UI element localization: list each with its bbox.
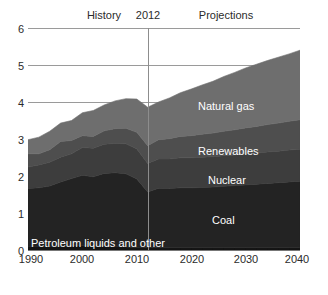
series-label-petroleum: Petroleum liquids and other xyxy=(31,238,165,249)
y-tick-label: 1 xyxy=(0,209,24,220)
x-tick-label: 1990 xyxy=(19,254,43,265)
x-tick-label: 2000 xyxy=(70,254,94,265)
x-tick-label: 2030 xyxy=(234,254,258,265)
divider-year-label: 2012 xyxy=(136,10,160,21)
x-tick-label: 2020 xyxy=(180,254,204,265)
y-tick-label: 6 xyxy=(0,24,24,35)
x-axis-line xyxy=(28,250,300,251)
y-tick-label: 5 xyxy=(0,61,24,72)
y-tick-label: 2 xyxy=(0,172,24,183)
series-label-renewables: Renewables xyxy=(198,146,259,157)
projection-divider-line xyxy=(148,28,149,250)
plot-area xyxy=(28,28,300,250)
y-axis-labels: 6 5 4 3 2 1 0 xyxy=(0,0,24,295)
projections-label: Projections xyxy=(199,10,253,21)
series-label-natural-gas: Natural gas xyxy=(198,101,254,112)
stacked-area-paths xyxy=(28,28,300,250)
x-tick-label: 2040 xyxy=(285,254,309,265)
y-tick-label: 4 xyxy=(0,98,24,109)
stacked-area-chart: 6 5 4 3 2 1 0 1990 2000 2010 2020 2030 2… xyxy=(0,0,328,295)
y-tick-label: 3 xyxy=(0,135,24,146)
series-label-coal: Coal xyxy=(212,215,235,226)
history-label: History xyxy=(87,10,121,21)
x-tick-label: 2010 xyxy=(125,254,149,265)
series-label-nuclear: Nuclear xyxy=(208,175,246,186)
